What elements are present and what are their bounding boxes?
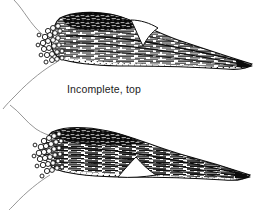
panel-bottom: Incomplete, bottom: [0, 105, 266, 210]
caption-incomplete-top: Incomplete, top: [67, 83, 141, 95]
panel-top: Incomplete, top: [0, 0, 266, 105]
